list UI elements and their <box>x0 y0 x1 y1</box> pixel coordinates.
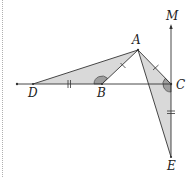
point-d <box>32 83 34 85</box>
label-a: A <box>131 33 141 47</box>
label-d: D <box>27 86 38 100</box>
label-c: C <box>176 78 185 92</box>
point-a <box>137 49 139 51</box>
label-e: E <box>166 159 176 173</box>
label-m: M <box>165 9 179 23</box>
point-start <box>16 83 18 85</box>
geometry-diagram: A B C D E M <box>0 0 192 177</box>
point-e <box>170 156 172 158</box>
label-b: B <box>96 86 106 100</box>
arrow-m-icon <box>169 24 172 29</box>
point-c <box>170 83 172 85</box>
point-b <box>101 83 103 85</box>
